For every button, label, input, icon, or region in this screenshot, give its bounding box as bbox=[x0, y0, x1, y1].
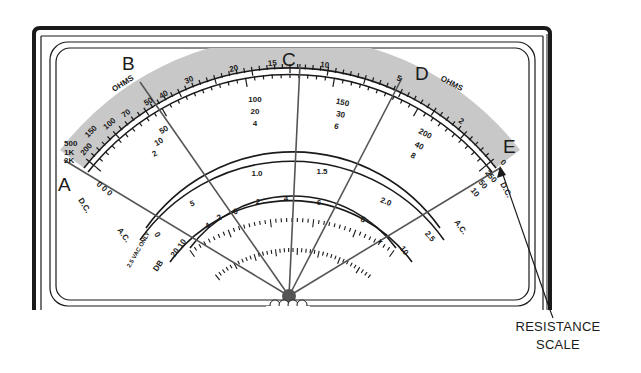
dc-zeros: 0 0 0 bbox=[95, 180, 115, 199]
meter-case bbox=[34, 28, 550, 310]
svg-text:15: 15 bbox=[268, 58, 278, 68]
svg-text:8: 8 bbox=[409, 151, 418, 161]
svg-text:1K: 1K bbox=[64, 148, 74, 157]
callout-line-2: SCALE bbox=[498, 336, 618, 354]
pointer-pivot bbox=[266, 289, 310, 312]
ac-label-left: A.C. bbox=[115, 226, 132, 244]
svg-text:10: 10 bbox=[320, 60, 330, 70]
svg-text:0: 0 bbox=[152, 231, 162, 240]
svg-text:6: 6 bbox=[333, 122, 340, 132]
pointer-c bbox=[289, 64, 300, 296]
svg-text:2K: 2K bbox=[64, 156, 74, 165]
svg-text:2.5: 2.5 bbox=[423, 229, 437, 244]
svg-text:2: 2 bbox=[256, 197, 261, 206]
label-e: E bbox=[503, 136, 516, 157]
label-a: A bbox=[58, 174, 71, 195]
svg-text:1.5: 1.5 bbox=[316, 167, 328, 176]
label-b: B bbox=[122, 53, 135, 74]
svg-text:5: 5 bbox=[189, 198, 197, 208]
db-tick-marks bbox=[215, 248, 370, 280]
db-label: DB bbox=[151, 258, 165, 273]
svg-text:200: 200 bbox=[417, 127, 433, 141]
pointer-e bbox=[289, 168, 500, 296]
label-c: C bbox=[282, 49, 296, 70]
svg-text:10: 10 bbox=[153, 135, 166, 148]
label-d: D bbox=[415, 63, 429, 84]
svg-text:4: 4 bbox=[253, 119, 258, 128]
svg-text:50: 50 bbox=[158, 123, 171, 136]
resistance-scale-callout: RESISTANCE SCALE bbox=[498, 318, 618, 354]
pointer-a bbox=[64, 160, 289, 296]
dc-label-left: D.C. bbox=[76, 196, 92, 214]
svg-text:20: 20 bbox=[251, 107, 260, 116]
svg-text:6: 6 bbox=[317, 198, 322, 207]
svg-text:30: 30 bbox=[335, 109, 346, 120]
svg-text:10: 10 bbox=[176, 237, 189, 250]
svg-text:40: 40 bbox=[413, 140, 426, 152]
svg-text:1.0: 1.0 bbox=[251, 169, 263, 178]
svg-text:150: 150 bbox=[335, 97, 350, 109]
svg-text:4: 4 bbox=[284, 194, 289, 203]
svg-text:100: 100 bbox=[248, 95, 262, 104]
ac-label-right: A.C. bbox=[452, 218, 469, 236]
svg-text:10: 10 bbox=[469, 186, 482, 199]
svg-text:500: 500 bbox=[64, 139, 78, 148]
db-plus-sign: + bbox=[378, 237, 383, 246]
svg-text:2: 2 bbox=[151, 149, 160, 159]
callout-line-1: RESISTANCE bbox=[498, 318, 618, 336]
svg-text:2.0: 2.0 bbox=[379, 195, 393, 208]
